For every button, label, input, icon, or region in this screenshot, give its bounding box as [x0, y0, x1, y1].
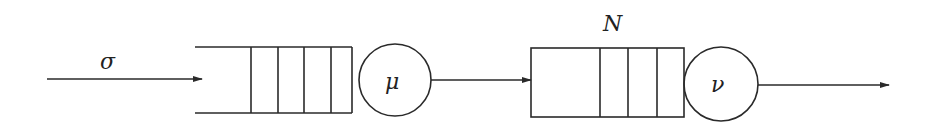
arrival-rate-label: σ — [100, 49, 116, 74]
station-1-queue — [195, 47, 352, 113]
station-1-service-rate-label: μ — [385, 69, 399, 94]
station-2-queue — [531, 48, 684, 117]
tandem-queue-diagram: σ μ N ν — [0, 0, 929, 125]
station-2-service-rate-label: ν — [711, 72, 724, 97]
station-2-capacity-label: N — [602, 11, 623, 36]
